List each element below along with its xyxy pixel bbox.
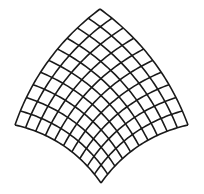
grid-line-u (36, 28, 124, 131)
grid-line-v (77, 28, 167, 131)
grid-lines (15, 9, 188, 183)
curvilinear-grid-figure (0, 0, 204, 194)
grid-diagram (0, 0, 204, 194)
